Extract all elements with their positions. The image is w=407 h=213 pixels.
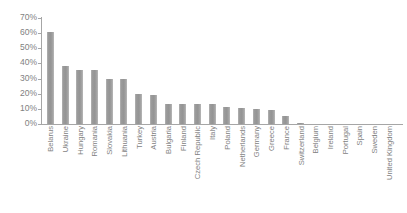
y-axis-tick-label: 50% xyxy=(0,43,37,52)
x-axis-label-slot: Switzerland xyxy=(293,126,308,213)
x-axis-label-slot: Czech Republic xyxy=(190,126,205,213)
x-axis-label-slot: Turkey xyxy=(131,126,146,213)
x-axis-tick-label: Switzerland xyxy=(296,87,305,126)
y-axis-tick-mark xyxy=(38,124,41,125)
y-axis-tick-mark xyxy=(38,79,41,80)
x-axis-tick-label: Ukraine xyxy=(61,100,70,126)
y-axis-tick-label: 40% xyxy=(0,58,37,67)
y-axis-tick-label: 70% xyxy=(0,13,37,22)
x-axis-tick-label: Hungary xyxy=(75,97,84,126)
y-axis-tick-mark xyxy=(38,48,41,49)
x-axis-tick-label: Bulgaria xyxy=(164,98,173,126)
x-axis-tick-label: Romania xyxy=(90,96,99,126)
x-axis-tick-label: Germany xyxy=(252,95,261,126)
y-axis-tick-label: 10% xyxy=(0,104,37,113)
x-axis-tick-label: Greece xyxy=(267,101,276,126)
x-axis-tick-label: United Kingdom xyxy=(384,72,393,126)
x-axis-tick-label: Czech Republic xyxy=(193,73,202,126)
y-axis-tick-label: 60% xyxy=(0,28,37,37)
x-axis-label-slot: Spain xyxy=(352,126,367,213)
x-axis-tick-label: Lithuania xyxy=(119,95,128,126)
x-axis-tick-label: Slovakia xyxy=(105,97,114,126)
x-axis-label-slot: Bulgaria xyxy=(161,126,176,213)
x-axis-label-slot: Ireland xyxy=(323,126,338,213)
x-axis-label-slot: Belarus xyxy=(43,126,58,213)
x-axis-tick-label: Poland xyxy=(222,102,231,126)
x-axis-tick-label: Sweden xyxy=(370,99,379,126)
x-axis-label-slot: United Kingdom xyxy=(381,126,396,213)
y-axis-tick-labels: 70%60%50%40%30%20%10%0% xyxy=(0,0,37,213)
x-axis-label-slot: Belgium xyxy=(308,126,323,213)
y-axis-tick-mark xyxy=(38,109,41,110)
x-axis-label-slot: Ukraine xyxy=(58,126,73,213)
x-axis-tick-label: Belgium xyxy=(311,99,320,126)
x-axis-tick-label: Finland xyxy=(178,101,187,126)
x-axis-label-slot: Lithuania xyxy=(117,126,132,213)
x-axis-category-labels: BelarusUkraineHungaryRomaniaSlovakiaLith… xyxy=(41,126,403,213)
y-axis-tick-label: 0% xyxy=(0,119,37,128)
x-axis-tick-label: Belarus xyxy=(46,100,55,126)
x-axis-tick-label: Portugal xyxy=(340,98,349,126)
x-axis-label-slot: Netherlands xyxy=(234,126,249,213)
bar-chart: 70%60%50%40%30%20%10%0% BelarusUkraineHu… xyxy=(0,0,407,213)
x-axis-label-slot: Sweden xyxy=(367,126,382,213)
y-axis-tick-mark xyxy=(38,63,41,64)
x-axis-tick-label: Turkey xyxy=(134,103,143,126)
x-axis-label-slot: France xyxy=(278,126,293,213)
x-axis-label-slot: Finland xyxy=(175,126,190,213)
y-axis-tick-label: 20% xyxy=(0,89,37,98)
x-axis-tick-label: Italy xyxy=(208,112,217,126)
x-axis-label-slot: Greece xyxy=(264,126,279,213)
x-axis-label-slot: Hungary xyxy=(72,126,87,213)
x-axis-tick-label: Austria xyxy=(149,102,158,126)
x-axis-label-slot: Slovakia xyxy=(102,126,117,213)
x-axis-label-slot: Poland xyxy=(220,126,235,213)
x-axis-tick-label: Ireland xyxy=(325,103,334,126)
y-axis-tick-label: 30% xyxy=(0,74,37,83)
x-axis-tick-label: France xyxy=(281,102,290,126)
y-axis-tick-mark xyxy=(38,33,41,34)
x-axis-label-slot: Germany xyxy=(249,126,264,213)
x-axis-label-slot: Italy xyxy=(205,126,220,213)
bar-slot xyxy=(205,18,220,124)
y-axis-tick-mark xyxy=(38,94,41,95)
x-axis-label-slot: Romania xyxy=(87,126,102,213)
x-axis-label-slot: Austria xyxy=(146,126,161,213)
x-axis-tick-label: Spain xyxy=(355,107,364,126)
x-axis-tick-label: Netherlands xyxy=(237,85,246,126)
x-axis-label-slot: Portugal xyxy=(337,126,352,213)
y-axis-tick-mark xyxy=(38,18,41,19)
